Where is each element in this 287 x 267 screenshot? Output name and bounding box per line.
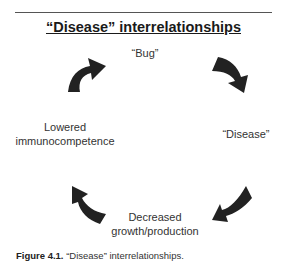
curved-arrow-up-right-icon <box>66 54 108 94</box>
figure-caption: Figure 4.1. “Disease” interrelationships… <box>16 250 184 261</box>
node-bug: “Bug” <box>120 46 170 60</box>
diagram-title: “Disease” interrelationships <box>0 19 287 35</box>
node-lowered-immunocompetence: Lowered immunocompetence <box>10 120 120 148</box>
node-disease: “Disease” <box>216 127 276 141</box>
node-growth-line1: Decreased <box>105 210 205 224</box>
node-decreased-growth: Decreased growth/production <box>105 210 205 238</box>
node-growth-line2: growth/production <box>105 224 205 238</box>
curved-arrow-up-left-icon <box>68 184 110 224</box>
node-immuno-line1: Lowered <box>10 120 120 134</box>
curved-arrow-down-right-icon <box>210 55 252 95</box>
top-rule <box>15 12 272 13</box>
node-immuno-line2: immunocompetence <box>10 134 120 148</box>
figure-caption-text: “Disease” interrelationships. <box>66 250 184 261</box>
curved-arrow-down-left-icon <box>210 184 252 224</box>
node-disease-label: “Disease” <box>222 128 269 140</box>
node-bug-label: “Bug” <box>132 47 159 59</box>
figure-caption-label: Figure 4.1. <box>16 250 64 261</box>
